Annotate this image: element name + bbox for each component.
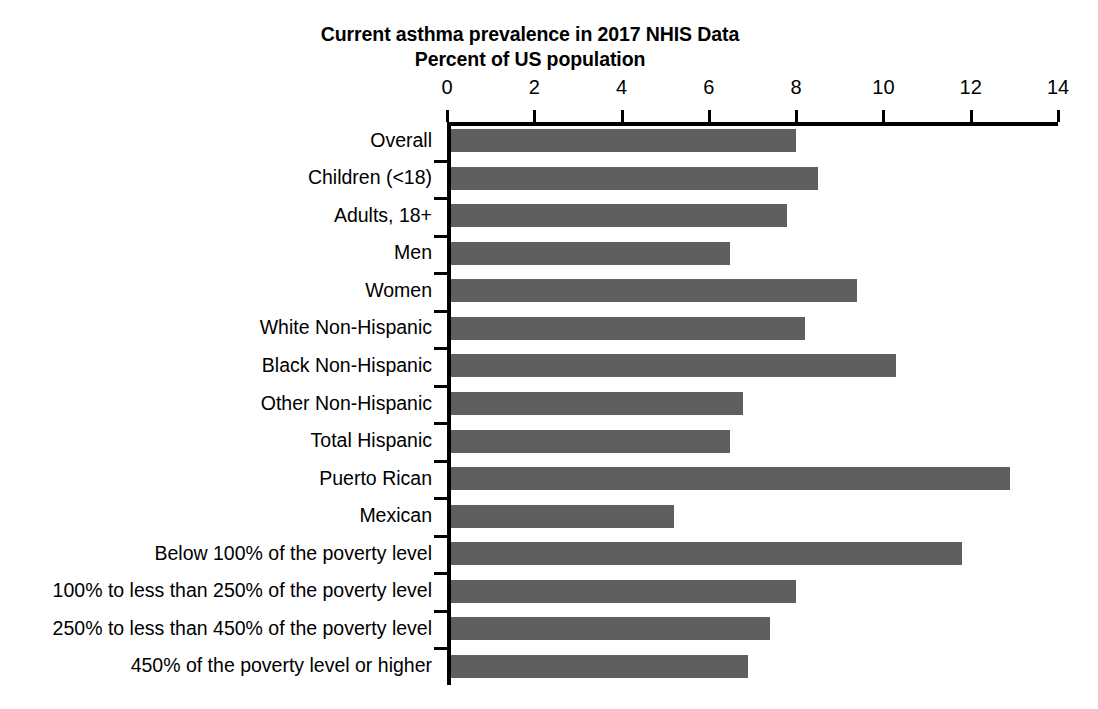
- bar: [451, 617, 770, 640]
- category-label: 100% to less than 250% of the poverty le…: [53, 580, 432, 600]
- category-label: Adults, 18+: [334, 205, 432, 225]
- x-tick-12: [970, 110, 973, 122]
- bar-row: [451, 272, 1058, 310]
- category-tick: [434, 385, 448, 388]
- x-tick-label-0: 0: [441, 76, 452, 99]
- x-tick-label-14: 14: [1047, 76, 1069, 99]
- category-label: Black Non-Hispanic: [262, 355, 432, 375]
- category-tick: [434, 160, 448, 163]
- category-label: Overall: [370, 130, 432, 150]
- category-axis-labels: OverallChildren (<18)Adults, 18+MenWomen…: [0, 122, 440, 685]
- bar-row: [451, 197, 1058, 235]
- plot-area: 02468101214: [447, 122, 1058, 685]
- category-label: Total Hispanic: [311, 430, 432, 450]
- chart-title-line-1: Current asthma prevalence in 2017 NHIS D…: [150, 22, 910, 47]
- chart-title: Current asthma prevalence in 2017 NHIS D…: [150, 22, 910, 72]
- x-tick-10: [882, 110, 885, 122]
- bar-row: [451, 347, 1058, 385]
- bar-rows: [451, 122, 1058, 685]
- category-tick: [434, 460, 448, 463]
- bar: [451, 655, 748, 678]
- bar-row: [451, 460, 1058, 498]
- category-label: Mexican: [359, 505, 432, 525]
- bar-row: [451, 535, 1058, 573]
- category-tick: [434, 347, 448, 350]
- asthma-prevalence-bar-chart: Current asthma prevalence in 2017 NHIS D…: [0, 0, 1098, 709]
- category-tick: [434, 535, 448, 538]
- category-label: Other Non-Hispanic: [261, 393, 432, 413]
- category-label: Women: [365, 280, 432, 300]
- x-tick-label-6: 6: [703, 76, 714, 99]
- bar: [451, 580, 796, 603]
- category-tick: [434, 235, 448, 238]
- bar-row: [451, 235, 1058, 273]
- category-label: 250% to less than 450% of the poverty le…: [53, 618, 432, 638]
- category-label: White Non-Hispanic: [260, 317, 432, 337]
- category-tick: [434, 197, 448, 200]
- bar: [451, 467, 1010, 490]
- category-label: Puerto Rican: [319, 468, 432, 488]
- category-tick: [434, 272, 448, 275]
- x-tick-6: [708, 110, 711, 122]
- bar-row: [451, 310, 1058, 348]
- x-tick-label-8: 8: [791, 76, 802, 99]
- bar: [451, 392, 743, 415]
- x-tick-label-12: 12: [960, 76, 982, 99]
- chart-title-line-2: Percent of US population: [150, 47, 910, 72]
- bar: [451, 542, 962, 565]
- bar: [451, 317, 805, 340]
- x-tick-4: [621, 110, 624, 122]
- bar: [451, 167, 818, 190]
- x-tick-2: [533, 110, 536, 122]
- category-label: Men: [394, 242, 432, 262]
- category-label: Below 100% of the poverty level: [155, 543, 433, 563]
- bar-row: [451, 497, 1058, 535]
- category-tick: [434, 497, 448, 500]
- category-tick: [434, 647, 448, 650]
- category-tick: [434, 422, 448, 425]
- x-tick-8: [795, 110, 798, 122]
- bar-row: [451, 422, 1058, 460]
- category-tick: [434, 572, 448, 575]
- bar: [451, 279, 857, 302]
- category-label: Children (<18): [308, 167, 432, 187]
- x-tick-14: [1057, 110, 1060, 122]
- bar-row: [451, 160, 1058, 198]
- bar: [451, 129, 796, 152]
- x-tick-label-4: 4: [616, 76, 627, 99]
- bar: [451, 242, 730, 265]
- category-tick: [434, 610, 448, 613]
- x-tick-0: [446, 110, 449, 122]
- bar-row: [451, 385, 1058, 423]
- category-tick: [434, 310, 448, 313]
- x-tick-label-10: 10: [872, 76, 894, 99]
- category-label: 450% of the poverty level or higher: [131, 655, 432, 675]
- bar: [451, 505, 674, 528]
- x-tick-label-2: 2: [529, 76, 540, 99]
- bar-row: [451, 610, 1058, 648]
- bar: [451, 354, 896, 377]
- bar: [451, 204, 787, 227]
- bar-row: [451, 122, 1058, 160]
- bar-row: [451, 572, 1058, 610]
- bar-row: [451, 647, 1058, 685]
- bar: [451, 430, 730, 453]
